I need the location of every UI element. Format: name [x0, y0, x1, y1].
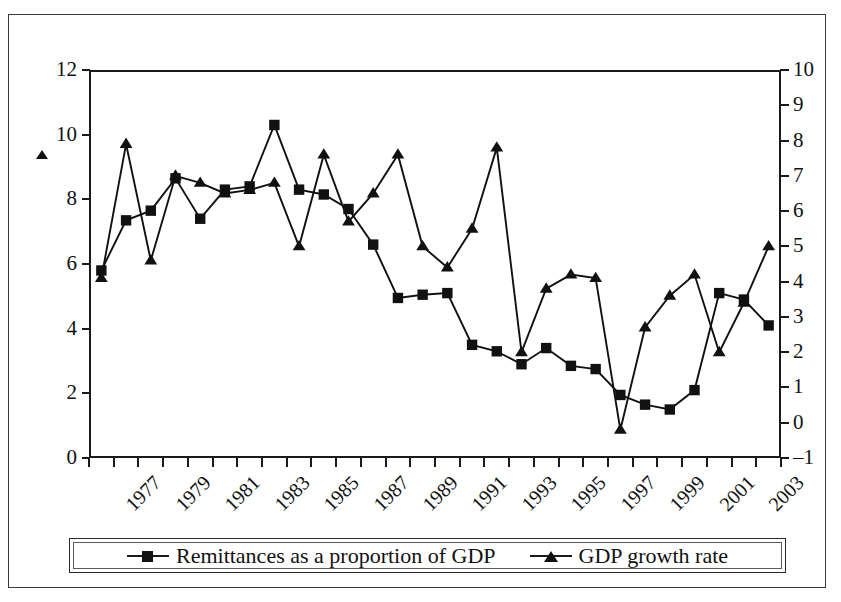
data-point-marker-triangle	[762, 240, 775, 250]
x-axis-tickmark	[731, 458, 733, 467]
right-axis-tick-label: 2	[793, 341, 841, 362]
plot-area	[89, 70, 781, 458]
data-point-marker-triangle	[293, 240, 306, 250]
x-axis-tickmark	[656, 458, 658, 467]
right-axis-tickmark	[780, 104, 789, 106]
data-point-marker-square	[269, 120, 279, 130]
left-axis-tickmark	[82, 328, 90, 330]
x-axis-tickmark	[533, 458, 535, 467]
data-point-marker-square	[294, 184, 304, 194]
x-axis-tickmark	[755, 458, 757, 467]
data-point-marker-triangle	[688, 268, 701, 278]
data-point-marker-triangle	[565, 268, 578, 278]
left-axis-tickmark	[82, 392, 90, 394]
right-axis-tickmark	[780, 140, 789, 142]
data-point-marker-square	[467, 340, 477, 350]
right-axis-tickmark	[780, 69, 789, 71]
x-axis-tick-label: 1995	[567, 472, 609, 514]
left-axis-tick-label: 2	[31, 382, 77, 403]
x-axis-tick-label: 1991	[468, 472, 510, 514]
x-axis-tickmark	[187, 458, 189, 467]
data-point-marker-triangle	[120, 138, 133, 148]
x-axis-tick-label: 1993	[517, 472, 559, 514]
data-point-marker-square	[640, 399, 650, 409]
x-axis-tickmark	[310, 458, 312, 467]
legend-item-gdp-growth: GDP growth rate	[530, 545, 729, 567]
x-axis-tick-label: 2001	[715, 472, 757, 514]
legend-item-remittances: Remittances as a proportion of GDP	[127, 545, 496, 567]
x-axis-tickmark	[558, 458, 560, 467]
data-point-marker-square	[714, 288, 724, 298]
x-axis-tickmark	[706, 458, 708, 467]
x-axis-tickmark	[681, 458, 683, 467]
right-axis-tick-label: 7	[793, 165, 841, 186]
data-point-marker-square	[615, 390, 625, 400]
data-point-marker-triangle	[540, 282, 553, 292]
left-axis-tick-label: 6	[31, 253, 77, 274]
legend-label-gdp-growth: GDP growth rate	[579, 545, 729, 567]
x-axis-tickmark	[286, 458, 288, 467]
data-point-marker-triangle	[367, 187, 380, 197]
series-polyline	[101, 125, 768, 410]
x-axis-tickmark	[212, 458, 214, 467]
data-point-marker-square	[541, 343, 551, 353]
data-point-marker-square	[516, 359, 526, 369]
right-axis-tick-label: 3	[793, 306, 841, 327]
left-axis-tick-label: 10	[31, 124, 77, 145]
right-axis-tick-label: 9	[793, 94, 841, 115]
data-point-marker-triangle	[268, 176, 281, 186]
x-axis-tickmark	[508, 458, 510, 467]
right-axis-tickmark	[780, 210, 789, 212]
x-axis-tickmark	[409, 458, 411, 467]
data-point-marker-triangle	[144, 254, 157, 264]
x-axis-tickmark	[607, 458, 609, 467]
x-axis-tickmark	[261, 458, 263, 467]
stray-triangle-icon	[36, 150, 48, 159]
x-axis-tick-label: 2003	[765, 472, 807, 514]
left-axis-tick-label: 4	[31, 318, 77, 339]
data-point-marker-square	[319, 189, 329, 199]
x-axis-tickmark	[385, 458, 387, 467]
right-axis-tickmark	[780, 281, 789, 283]
data-point-marker-triangle	[614, 423, 627, 433]
right-axis-tick-label: 8	[793, 130, 841, 151]
left-axis-tick-label: 8	[31, 188, 77, 209]
right-axis-tick-label: 10	[793, 59, 841, 80]
x-axis-tick-label: 1999	[666, 472, 708, 514]
x-axis-tick-label: 1981	[221, 472, 263, 514]
series-lines	[89, 70, 781, 458]
left-axis-tickmark	[82, 69, 90, 71]
right-axis-tick-label: 4	[793, 271, 841, 292]
legend-square-marker-icon	[127, 549, 169, 563]
left-axis-tickmark	[82, 198, 90, 200]
x-axis-tick-label: 1979	[171, 472, 213, 514]
figure-border: 024681012 –1012345678910 197719791981198…	[8, 14, 826, 588]
series-polyline	[101, 144, 768, 430]
x-axis-tick-label: 1977	[122, 472, 164, 514]
data-point-marker-square	[393, 293, 403, 303]
data-point-marker-square	[368, 239, 378, 249]
left-axis-tick-label: 0	[31, 447, 77, 468]
figure-container: 024681012 –1012345678910 197719791981198…	[0, 0, 841, 602]
x-axis-tickmark	[88, 458, 90, 467]
right-axis-tickmark	[780, 351, 789, 353]
right-axis-tickmark	[780, 175, 789, 177]
x-axis-tick-label: 1997	[616, 472, 658, 514]
data-point-marker-square	[665, 404, 675, 414]
x-axis-tickmark	[582, 458, 584, 467]
x-axis-tick-label: 1983	[270, 472, 312, 514]
x-axis-tickmark	[162, 458, 164, 467]
data-point-marker-triangle	[392, 148, 405, 158]
series-gdp-growth	[95, 138, 775, 434]
legend-triangle-marker-icon	[530, 549, 572, 563]
data-point-marker-square	[442, 288, 452, 298]
data-point-marker-triangle	[466, 222, 479, 232]
x-axis-tickmark	[236, 458, 238, 467]
data-point-marker-square	[763, 320, 773, 330]
data-point-marker-square	[121, 215, 131, 225]
right-axis-tick-label: –1	[793, 447, 841, 468]
right-axis-tickmark	[780, 316, 789, 318]
data-point-marker-triangle	[416, 240, 429, 250]
data-point-marker-square	[492, 346, 502, 356]
data-point-marker-triangle	[317, 148, 330, 158]
